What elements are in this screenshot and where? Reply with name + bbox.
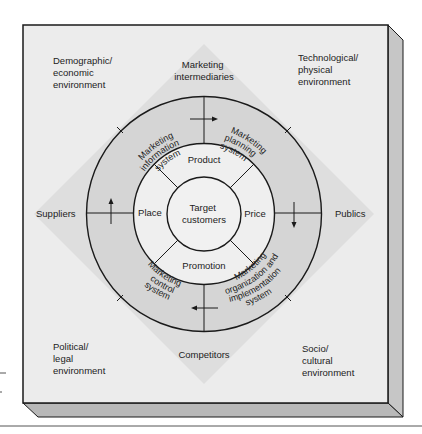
mix-label-place: Place (138, 207, 162, 218)
marketing-environment-diagram: Demographic/ economic environment Techno… (0, 0, 422, 434)
mix-label-price: Price (244, 208, 266, 219)
mix-label-product: Product (188, 154, 221, 165)
actor-label-intermediaries: Marketing intermediaries (174, 59, 234, 82)
mix-label-promotion: Promotion (182, 260, 225, 271)
actor-label-suppliers: Suppliers (36, 208, 76, 219)
actor-label-publics: Publics (335, 208, 366, 219)
box-bottom-side (23, 403, 403, 417)
box-right-side (388, 25, 403, 417)
actor-label-competitors: Competitors (178, 349, 229, 360)
